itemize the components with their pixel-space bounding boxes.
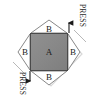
wedge-right: B (68, 34, 80, 70)
wedge-bottom-label: B (46, 72, 52, 82)
press-label-bottom-left-text: PRESS (18, 72, 27, 95)
wedge-top-label: B (46, 24, 52, 34)
press-label-bottom-left: PRESS (18, 72, 27, 95)
press-label-top-right-text: PRESS (78, 4, 87, 27)
wedge-left: B (18, 34, 30, 70)
wedge-bottom: B (31, 71, 67, 85)
wedge-top: B (31, 20, 67, 34)
center-part-label: A (46, 47, 53, 57)
wedge-right-label: B (70, 47, 76, 57)
press-label-top-right: PRESS (78, 4, 87, 27)
diagram-canvas: B B B B A PRESS (0, 0, 98, 104)
wedge-left-label: B (22, 47, 28, 57)
center-part-a: A (31, 34, 68, 71)
press-leader-top-right (74, 30, 86, 42)
press-fit-diagram: B B B B A PRESS (0, 0, 98, 104)
